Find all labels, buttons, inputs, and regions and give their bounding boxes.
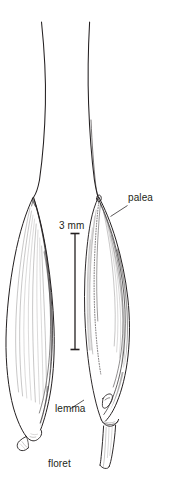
canvas-background [0,0,170,500]
label-palea: palea [128,192,153,203]
label-lemma: lemma [55,403,86,414]
label-floret: floret [48,458,71,469]
botanical-illustration-figure: .ink { fill: none; stroke: #231f20; stro… [0,0,170,500]
floret-illustration-svg: .ink { fill: none; stroke: #231f20; stro… [0,0,170,500]
scale-bar-label: 3 mm [59,220,84,231]
